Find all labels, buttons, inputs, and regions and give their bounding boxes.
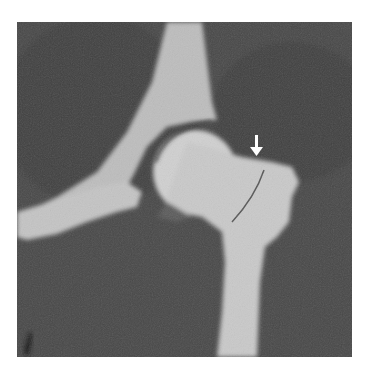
radiograph-image: hip joint coronal view (17, 22, 352, 357)
radiograph-drawing (17, 22, 352, 357)
